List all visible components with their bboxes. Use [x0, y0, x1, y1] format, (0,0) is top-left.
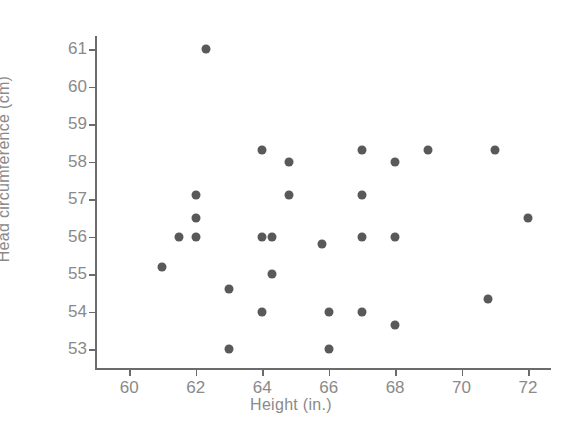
y-tick-label: 59 [68, 114, 87, 134]
y-tick-mark [89, 49, 96, 51]
y-axis-label: Head circumference (cm) [0, 0, 13, 339]
data-point [268, 232, 277, 241]
data-point [284, 157, 293, 166]
data-point [201, 45, 210, 54]
y-tick-mark [89, 274, 96, 276]
data-point [391, 320, 400, 329]
data-point [484, 294, 493, 303]
data-point [284, 191, 293, 200]
x-tick-label: 64 [253, 378, 272, 398]
data-point [490, 146, 499, 155]
x-tick-label: 62 [186, 378, 205, 398]
y-tick-mark [89, 237, 96, 239]
data-point [324, 345, 333, 354]
x-tick-mark [196, 369, 198, 376]
y-tick-label: 58 [68, 152, 87, 172]
data-point [258, 146, 267, 155]
y-tick-label: 53 [68, 339, 87, 359]
y-tick-label: 55 [68, 264, 87, 284]
plot-area: 535455565758596061 60626466687072 [96, 36, 548, 368]
data-point [258, 307, 267, 316]
data-point [258, 232, 267, 241]
data-point [191, 213, 200, 222]
data-point [175, 232, 184, 241]
x-tick-mark [528, 369, 530, 376]
x-tick-label: 72 [519, 378, 538, 398]
data-point [324, 307, 333, 316]
y-tick-mark [89, 199, 96, 201]
x-tick-mark [262, 369, 264, 376]
y-tick-label: 56 [68, 227, 87, 247]
data-point [158, 262, 167, 271]
y-tick-label: 60 [68, 77, 87, 97]
data-point [191, 232, 200, 241]
x-tick-label: 60 [120, 378, 139, 398]
data-point [268, 270, 277, 279]
data-point [357, 307, 366, 316]
y-tick-label: 57 [68, 189, 87, 209]
x-tick-mark [395, 369, 397, 376]
y-tick-mark [89, 162, 96, 164]
y-tick-mark [89, 87, 96, 89]
x-tick-label: 68 [386, 378, 405, 398]
x-tick-mark [329, 369, 331, 376]
data-point [357, 232, 366, 241]
y-tick-mark [89, 349, 96, 351]
x-axis-spine [95, 368, 551, 370]
data-point [224, 345, 233, 354]
y-tick-mark [89, 312, 96, 314]
data-point [357, 191, 366, 200]
data-point [357, 146, 366, 155]
data-point [424, 146, 433, 155]
data-point [318, 240, 327, 249]
x-tick-label: 70 [452, 378, 471, 398]
y-tick-label: 54 [68, 302, 87, 322]
scatter-plot-figure: 535455565758596061 60626466687072 Height… [0, 0, 582, 433]
x-tick-mark [129, 369, 131, 376]
data-point [524, 213, 533, 222]
data-point [391, 157, 400, 166]
x-tick-mark [462, 369, 464, 376]
x-axis-label: Height (in.) [0, 396, 582, 414]
data-point [224, 285, 233, 294]
x-tick-label: 66 [319, 378, 338, 398]
y-tick-mark [89, 124, 96, 126]
data-point [391, 232, 400, 241]
y-tick-label: 61 [68, 39, 87, 59]
data-point [191, 191, 200, 200]
